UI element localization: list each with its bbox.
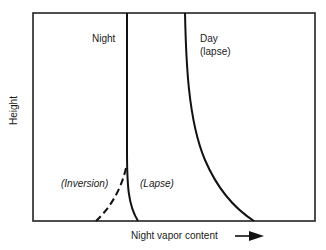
day-lapse-curve [185,13,254,221]
x-axis-label: Night vapor content [131,230,218,242]
night-inversion-curve [96,168,126,221]
night-lapse-curve [127,13,138,221]
day-lapse-label: (lapse) [200,46,231,58]
y-axis-label: Height [8,96,19,125]
x-axis-arrow-icon [249,231,264,241]
diagram-canvas [0,0,326,250]
day-label: Day [200,33,218,45]
inversion-label: (Inversion) [61,178,108,190]
night-label: Night [92,33,115,45]
lapse-label: (Lapse) [140,178,174,190]
